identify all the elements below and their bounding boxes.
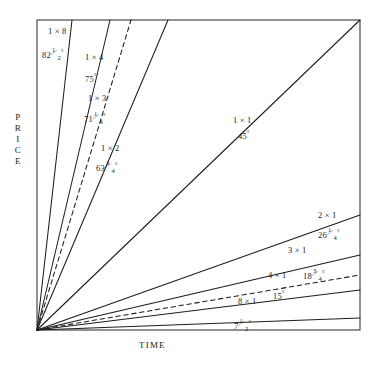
chart-label-ratio-1x2: 1 × 2 (101, 144, 120, 153)
fraction-denominator: 4 (318, 276, 321, 283)
label-fraction: 1⁄2 (52, 49, 61, 59)
y-axis-letter-1: R (11, 123, 25, 134)
label-fraction: 3⁄4 (313, 270, 322, 280)
chart-label-angle-1x2: 633⁄4° (96, 162, 118, 173)
fraction-denominator: 2 (245, 326, 248, 333)
chart-label-ratio-8x1: 8 × 1 (238, 297, 257, 306)
chart-label-angle-1x1: 45° (238, 130, 250, 140)
angle-ray-1x3 (37, 20, 131, 330)
angle-ray-1x1 (37, 20, 360, 330)
degree-icon: ° (61, 49, 64, 55)
chart-label-angle-8x1: 71⁄2° (234, 320, 251, 331)
label-whole: 63 (96, 163, 105, 173)
chart-label-angle-1x3: 711⁄4° (84, 113, 106, 124)
angle-ray-1x4 (37, 20, 110, 330)
y-axis-label-price: PRICE (11, 112, 25, 167)
chart-label-ratio-1x1: 1 × 1 (233, 116, 252, 125)
label-whole: 26 (318, 230, 327, 240)
label-whole: 7 (234, 321, 238, 331)
label-whole: 45 (238, 131, 247, 141)
degree-icon: ° (103, 113, 106, 119)
angle-ray-1x8 (37, 20, 72, 330)
degree-icon: ° (94, 73, 97, 79)
degree-icon: ° (248, 320, 251, 326)
label-fraction: 1⁄2 (239, 320, 248, 330)
label-whole: 18 (303, 271, 312, 281)
label-fraction: 3⁄4 (106, 162, 115, 172)
chart-label-angle-2x1: 261⁄4° (318, 229, 340, 240)
chart-label-ratio-4x1: 4 × 1 (268, 271, 287, 280)
degree-icon: ° (247, 130, 250, 136)
gann-angle-chart: PRICE TIME 1 × 8821⁄2°1 × 475°1 × 3711⁄4… (0, 0, 380, 367)
label-whole: 75 (85, 74, 94, 84)
y-axis-letter-0: P (11, 112, 25, 123)
fraction-denominator: 4 (333, 235, 336, 242)
label-whole: 71 (84, 114, 93, 124)
label-fraction: 1⁄4 (328, 229, 337, 239)
degree-icon: ° (337, 229, 340, 235)
chart-label-angle-1x4: 75° (85, 73, 97, 83)
chart-label-ratio-2x1: 2 × 1 (318, 211, 337, 220)
degree-icon: ° (115, 162, 118, 168)
label-whole: 82 (42, 50, 51, 60)
fraction-denominator: 4 (111, 168, 114, 175)
x-axis-label-time: TIME (139, 340, 166, 350)
chart-label-angle-1x8: 821⁄2° (42, 49, 64, 60)
chart-label-angle-3x1: 183⁄4° (303, 270, 325, 281)
chart-label-angle-4x1: 15° (273, 290, 285, 300)
chart-label-ratio-1x8: 1 × 8 (48, 27, 67, 36)
y-axis-letter-2: I (11, 134, 25, 145)
angle-ray-group (37, 20, 360, 330)
chart-label-ratio-1x3: 1 × 3 (88, 94, 107, 103)
degree-icon: ° (322, 270, 325, 276)
chart-label-ratio-1x4: 1 × 4 (85, 53, 104, 62)
angle-ray-3x1 (37, 255, 360, 330)
chart-label-ratio-3x1: 3 × 1 (288, 246, 307, 255)
degree-icon: ° (282, 290, 285, 296)
y-axis-letter-4: E (11, 156, 25, 167)
label-fraction: 1⁄4 (94, 113, 103, 123)
label-whole: 15 (273, 291, 282, 301)
angle-ray-1x2 (37, 20, 168, 330)
fraction-denominator: 2 (57, 55, 60, 62)
y-axis-letter-3: C (11, 145, 25, 156)
fraction-denominator: 4 (99, 119, 102, 126)
